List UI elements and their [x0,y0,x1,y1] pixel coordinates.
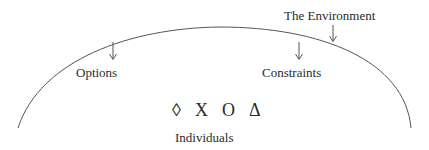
options-arrow-icon [110,42,117,60]
environment-label: The Environment [284,9,375,22]
diamond-symbol: ◊ [172,101,181,119]
options-label: Options [76,66,117,79]
circle-symbol: O [222,101,235,119]
individuals-label: Individuals [175,131,234,144]
environment-arrow-icon [330,25,337,42]
constraints-arrow-icon [296,42,303,60]
x-symbol: X [195,101,208,119]
individual-symbols: ◊XOΔ [172,101,260,119]
constraints-label: Constraints [262,66,321,79]
triangle-symbol: Δ [249,101,261,119]
